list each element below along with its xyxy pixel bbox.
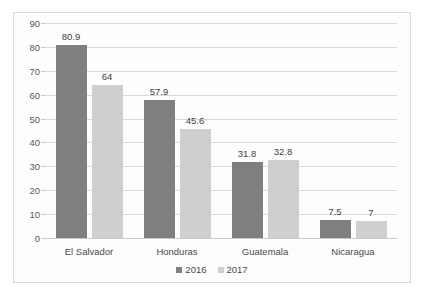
legend-swatch-icon: [218, 267, 224, 273]
y-axis-tick-label: 60: [29, 89, 40, 100]
y-axis-tick-label: 40: [29, 137, 40, 148]
bar-value-label: 57.9: [150, 86, 169, 97]
bar-group: 7.57Nicaragua: [320, 23, 387, 238]
y-axis-tick-label: 80: [29, 41, 40, 52]
bar-value-label: 7: [368, 207, 373, 218]
y-axis-tick-label: 20: [29, 185, 40, 196]
y-axis-tick-mark: [41, 47, 45, 48]
y-axis-tick-mark: [41, 71, 45, 72]
y-axis-tick-mark: [41, 142, 45, 143]
y-axis-tick-mark: [41, 166, 45, 167]
y-axis-tick-mark: [41, 214, 45, 215]
bar-group: 80.964El Salvador: [56, 23, 123, 238]
plot-area: 010203040506070809080.964El Salvador57.9…: [45, 23, 397, 238]
x-axis-category-label: Nicaragua: [331, 246, 374, 257]
chart-frame: 010203040506070809080.964El Salvador57.9…: [13, 12, 411, 283]
x-axis-category-label: Guatemala: [242, 246, 288, 257]
legend-label: 2016: [185, 264, 206, 275]
bar[interactable]: 45.6: [180, 129, 211, 238]
y-axis-tick-mark: [41, 119, 45, 120]
y-axis-tick-label: 30: [29, 161, 40, 172]
bar[interactable]: 31.8: [232, 162, 263, 238]
bar-value-label: 7.5: [328, 206, 341, 217]
chart-legend: 20162017: [14, 264, 410, 275]
bar[interactable]: 64: [92, 85, 123, 238]
gridline: [45, 238, 397, 239]
y-axis-tick-label: 0: [35, 233, 40, 244]
y-axis-tick-mark: [41, 23, 45, 24]
bar[interactable]: 7.5: [320, 220, 351, 238]
legend-label: 2017: [227, 264, 248, 275]
legend-swatch-icon: [176, 267, 182, 273]
x-axis-category-label: Honduras: [156, 246, 197, 257]
y-axis-tick-mark: [41, 190, 45, 191]
bar[interactable]: 57.9: [144, 100, 175, 238]
y-axis-tick-label: 10: [29, 209, 40, 220]
legend-item-2016[interactable]: 2016: [176, 264, 206, 275]
bar-value-label: 45.6: [186, 115, 205, 126]
y-axis-tick-mark: [41, 95, 45, 96]
x-axis-category-label: El Salvador: [65, 246, 114, 257]
y-axis-tick-mark: [41, 238, 45, 239]
bar-value-label: 80.9: [62, 31, 81, 42]
y-axis-tick-label: 70: [29, 65, 40, 76]
bar-value-label: 64: [102, 71, 113, 82]
bar[interactable]: 80.9: [56, 45, 87, 238]
legend-item-2017[interactable]: 2017: [218, 264, 248, 275]
bar-group: 31.832.8Guatemala: [232, 23, 299, 238]
bar[interactable]: 32.8: [268, 160, 299, 238]
bar-value-label: 31.8: [238, 148, 257, 159]
bar-group: 57.945.6Honduras: [144, 23, 211, 238]
bar[interactable]: 7: [356, 221, 387, 238]
y-axis-tick-label: 90: [29, 18, 40, 29]
y-axis-tick-label: 50: [29, 113, 40, 124]
bar-value-label: 32.8: [274, 146, 293, 157]
